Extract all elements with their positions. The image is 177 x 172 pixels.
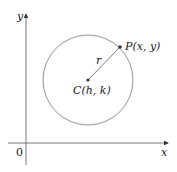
point-label: P(x, y): [124, 40, 160, 53]
x-axis-label: x: [161, 146, 168, 159]
origin-label: 0: [16, 146, 23, 159]
center-point: [86, 78, 89, 81]
radius-line: [88, 47, 120, 80]
y-axis-label: y: [16, 10, 24, 23]
circle-diagram: y x 0 r C(h, k) P(x, y): [0, 0, 177, 172]
point-p: [118, 45, 122, 49]
radius-label: r: [96, 54, 102, 67]
center-label: C(h, k): [73, 84, 111, 97]
